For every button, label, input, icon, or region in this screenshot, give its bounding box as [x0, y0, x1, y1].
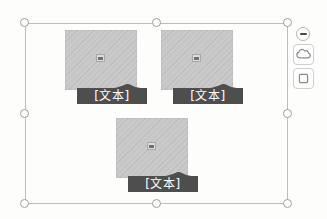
image-placeholder-area[interactable]	[116, 118, 188, 178]
shape-button[interactable]	[293, 44, 314, 65]
caption-text[interactable]: [文本]	[128, 176, 198, 192]
image-placeholder-area[interactable]	[65, 30, 137, 90]
selection-handle-middle-right[interactable]	[283, 109, 292, 118]
caption-text[interactable]: [文本]	[173, 88, 243, 104]
picture-placeholder-1[interactable]: [文本]	[65, 30, 147, 104]
selection-handle-middle-left[interactable]	[20, 109, 29, 118]
frame-button[interactable]	[293, 68, 314, 89]
collapse-button[interactable]	[296, 27, 310, 41]
picture-placeholder-3[interactable]: [文本]	[116, 118, 198, 192]
selection-handle-top-middle[interactable]	[152, 18, 161, 27]
selection-handle-bottom-left[interactable]	[20, 199, 29, 208]
picture-icon	[192, 54, 201, 62]
cloud-shape-icon	[294, 44, 313, 65]
square-icon	[294, 68, 313, 89]
slide-canvas: [文本] [文本] [文本]	[0, 0, 327, 219]
image-placeholder-area[interactable]	[161, 30, 233, 90]
picture-icon	[96, 54, 105, 62]
selection-handle-bottom-middle[interactable]	[152, 199, 161, 208]
selection-handle-top-left[interactable]	[20, 18, 29, 27]
caption-text[interactable]: [文本]	[77, 88, 147, 104]
selection-handle-bottom-right[interactable]	[283, 199, 292, 208]
selection-handle-top-right[interactable]	[283, 18, 292, 27]
minus-icon	[300, 33, 307, 35]
picture-icon	[147, 142, 156, 150]
picture-placeholder-2[interactable]: [文本]	[161, 30, 243, 104]
